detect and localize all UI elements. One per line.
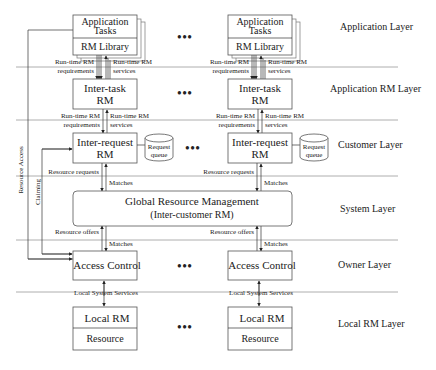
ellipsis-icon: ••• <box>177 259 193 273</box>
inter-request-label: RM <box>96 148 113 160</box>
req2-label: Run-time RM <box>216 112 256 120</box>
req1-label: requirements <box>57 67 94 75</box>
queue-label: queue <box>306 151 323 159</box>
matches-label: Matches <box>109 179 133 187</box>
svc2-label: services <box>265 121 288 129</box>
layer-label-application-rm: Application RM Layer <box>330 83 422 94</box>
local-services-label: Local System Services <box>229 289 293 297</box>
claiming-label: Claiming <box>34 178 42 205</box>
matches-label: Matches <box>264 179 288 187</box>
queue-label: Request <box>148 143 171 151</box>
app-tasks-label-2: Tasks <box>249 25 272 36</box>
ellipsis-icon: ••• <box>177 320 193 334</box>
svc1-label: Run-time RM <box>113 58 153 66</box>
resource-offers-label: Resource offers <box>210 228 254 236</box>
req2-label: requirements <box>63 121 100 129</box>
req1-label: Run-time RM <box>210 58 250 66</box>
column-left: Application Tasks RM Library Run-time RM… <box>48 15 173 350</box>
svc2-label: Run-time RM <box>110 112 150 120</box>
queue-label: Request <box>303 143 326 151</box>
svc2-label: services <box>110 121 133 129</box>
req1-label: Run-time RM <box>55 58 95 66</box>
column-right: Application Tasks RM Library Run-time RM… <box>203 15 328 350</box>
global-rm-title: Global Resource Management <box>125 195 259 207</box>
inter-request-label: Inter-request <box>77 136 133 148</box>
local-rm-label: Local RM <box>240 312 285 324</box>
layer-label-customer: Customer Layer <box>338 139 403 150</box>
access-control-label: Access Control <box>228 259 296 271</box>
global-rm-subtitle: (Inter-customer RM) <box>150 209 233 221</box>
resource-label: Resource <box>86 333 124 344</box>
svc1-label: Run-time RM <box>268 58 308 66</box>
req1-label: requirements <box>212 67 249 75</box>
resource-requests-label: Resource requests <box>203 168 254 176</box>
layer-label-system: System Layer <box>340 203 396 214</box>
local-services-label: Local System Services <box>74 289 138 297</box>
resource-offers-label: Resource offers <box>55 228 99 236</box>
svc1-label: services <box>113 67 136 75</box>
app-tasks-label-2: Tasks <box>94 25 117 36</box>
inter-request-label: RM <box>251 148 268 160</box>
resource-access-label: Resource Access <box>17 146 25 194</box>
resource-label: Resource <box>241 333 279 344</box>
ellipsis-icon: ••• <box>177 86 193 100</box>
inter-task-label: Inter-task <box>84 82 126 94</box>
inter-task-label: Inter-task <box>239 82 281 94</box>
ellipsis-icon: ••• <box>185 141 201 155</box>
ellipsis-icon: ••• <box>177 30 193 44</box>
rm-library-label: RM Library <box>236 41 284 52</box>
req2-label: Run-time RM <box>61 112 101 120</box>
svc2-label: Run-time RM <box>265 112 305 120</box>
svc1-label: services <box>268 67 291 75</box>
inter-request-label: Inter-request <box>232 136 288 148</box>
resource-requests-label: Resource requests <box>48 168 99 176</box>
req2-label: requirements <box>218 121 255 129</box>
local-rm-label: Local RM <box>85 312 130 324</box>
claiming-line <box>42 149 72 254</box>
layer-label-owner: Owner Layer <box>338 259 392 270</box>
matches-label: Matches <box>109 240 133 248</box>
rm-library-label: RM Library <box>81 41 129 52</box>
queue-label: queue <box>151 151 168 159</box>
layer-label-local-rm: Local RM Layer <box>338 318 405 329</box>
inter-task-label: RM <box>96 94 113 106</box>
inter-task-label: RM <box>251 94 268 106</box>
matches-label: Matches <box>264 240 288 248</box>
access-control-label: Access Control <box>73 259 141 271</box>
rm-architecture-diagram: Application Layer Application RM Layer C… <box>0 0 436 370</box>
layer-label-application: Application Layer <box>340 21 414 32</box>
